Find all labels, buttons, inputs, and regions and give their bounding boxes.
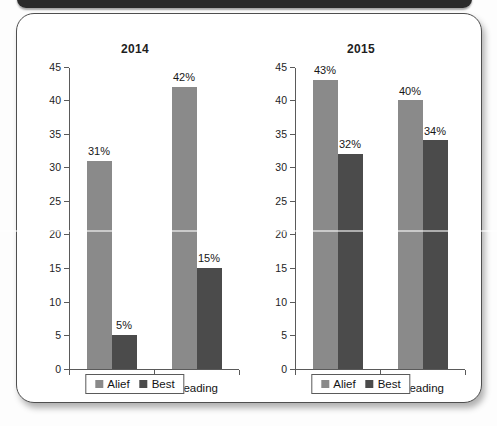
y-tick-label: 20 xyxy=(49,228,61,240)
legend-swatch-best-icon xyxy=(140,380,148,388)
y-tick-label: 30 xyxy=(275,161,287,173)
y-tick-label: 10 xyxy=(275,296,287,308)
y-tick-label: 25 xyxy=(275,195,287,207)
bar-value-label: 43% xyxy=(314,64,336,76)
scanned-page: 2014 05101520253035404531%5%Math42%15%Re… xyxy=(0,0,497,426)
y-tick-mark xyxy=(64,335,69,336)
legend-entry-alief: Alief xyxy=(95,378,129,390)
legend-entry-alief: Alief xyxy=(321,378,355,390)
y-tick-mark xyxy=(290,302,295,303)
y-tick-mark xyxy=(64,100,69,101)
y-tick-label: 10 xyxy=(49,296,61,308)
y-tick-mark xyxy=(290,167,295,168)
bar-best-math xyxy=(112,335,137,369)
y-tick-mark xyxy=(290,234,295,235)
chart-card: 2014 05101520253035404531%5%Math42%15%Re… xyxy=(16,13,482,403)
y-tick-label: 5 xyxy=(55,329,61,341)
y-tick-label: 35 xyxy=(49,128,61,140)
legend-swatch-alief-icon xyxy=(321,380,329,388)
bar-alief-math xyxy=(87,161,112,369)
y-tick-label: 5 xyxy=(281,329,287,341)
y-tick-mark xyxy=(64,268,69,269)
y-tick-mark xyxy=(290,335,295,336)
bar-value-label: 15% xyxy=(198,252,220,264)
y-tick-label: 0 xyxy=(281,363,287,375)
y-tick-mark xyxy=(64,67,69,68)
chart-title-2015: 2015 xyxy=(249,42,473,56)
y-axis-2014 xyxy=(69,68,70,370)
chart-panel-2014: 2014 05101520253035404531%5%Math42%15%Re… xyxy=(23,28,247,388)
y-tick-mark xyxy=(64,167,69,168)
y-tick-label: 30 xyxy=(49,161,61,173)
bar-value-label: 40% xyxy=(399,85,421,97)
legend-label-best: Best xyxy=(378,378,401,390)
x-tick-mark xyxy=(465,370,466,375)
bar-best-math xyxy=(338,154,363,369)
y-tick-label: 25 xyxy=(49,195,61,207)
plot-area-2015: 05101520253035404543%32%Math40%34%Readin… xyxy=(295,68,465,370)
x-tick-mark xyxy=(239,370,240,375)
y-tick-label: 45 xyxy=(49,61,61,73)
y-tick-mark xyxy=(290,268,295,269)
y-tick-mark xyxy=(64,201,69,202)
y-tick-label: 35 xyxy=(275,128,287,140)
bar-value-label: 32% xyxy=(339,138,361,150)
y-tick-label: 0 xyxy=(55,363,61,375)
bar-best-reading xyxy=(197,268,222,369)
legend-2014: Alief Best xyxy=(85,374,184,394)
y-tick-label: 15 xyxy=(49,262,61,274)
y-tick-mark xyxy=(290,201,295,202)
chart-panel-2015: 2015 05101520253035404543%32%Math40%34%R… xyxy=(249,28,473,388)
y-tick-label: 45 xyxy=(275,61,287,73)
bar-value-label: 31% xyxy=(88,145,110,157)
x-tick-mark xyxy=(295,370,296,375)
legend-label-alief: Alief xyxy=(333,378,355,390)
y-tick-mark xyxy=(290,134,295,135)
bar-value-label: 5% xyxy=(116,319,132,331)
bar-alief-math xyxy=(313,80,338,369)
y-axis-2015 xyxy=(295,68,296,370)
top-dark-banner xyxy=(17,0,472,8)
bar-best-reading xyxy=(423,140,448,368)
chart-title-2014: 2014 xyxy=(23,42,247,56)
y-tick-label: 40 xyxy=(275,94,287,106)
legend-entry-best: Best xyxy=(140,378,175,390)
y-tick-mark xyxy=(290,100,295,101)
x-tick-mark xyxy=(69,370,70,375)
y-tick-label: 20 xyxy=(275,228,287,240)
legend-swatch-alief-icon xyxy=(95,380,103,388)
bar-alief-reading xyxy=(398,100,423,368)
legend-label-alief: Alief xyxy=(107,378,129,390)
legend-label-best: Best xyxy=(152,378,175,390)
bar-alief-reading xyxy=(172,87,197,369)
y-tick-mark xyxy=(64,234,69,235)
y-tick-mark xyxy=(290,67,295,68)
y-tick-mark xyxy=(64,302,69,303)
bar-value-label: 42% xyxy=(173,71,195,83)
plot-area-2014: 05101520253035404531%5%Math42%15%Reading xyxy=(69,68,239,370)
y-tick-label: 15 xyxy=(275,262,287,274)
bar-value-label: 34% xyxy=(424,125,446,137)
legend-2015: Alief Best xyxy=(311,374,410,394)
y-tick-mark xyxy=(64,134,69,135)
y-tick-label: 40 xyxy=(49,94,61,106)
legend-entry-best: Best xyxy=(366,378,401,390)
legend-swatch-best-icon xyxy=(366,380,374,388)
